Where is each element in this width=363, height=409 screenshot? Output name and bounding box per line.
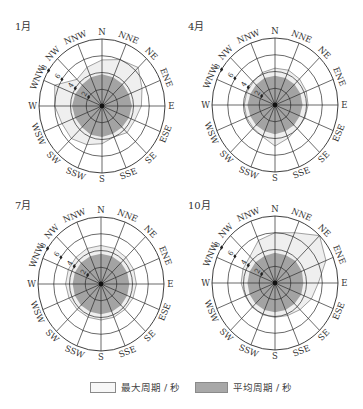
direction-label-n: N	[271, 26, 279, 36]
chart-title: 10月	[188, 200, 211, 211]
legend-swatch-avg	[195, 382, 228, 393]
legend-swatch-max	[90, 382, 116, 393]
direction-label-ese: ESE	[330, 123, 346, 144]
direction-label-nw: NW	[216, 221, 235, 240]
direction-label-nne: NNE	[116, 207, 139, 224]
direction-label-nnw: NNW	[235, 205, 261, 223]
direction-label-ene: ENE	[331, 66, 348, 88]
direction-label-w: W	[201, 278, 210, 288]
direction-label-sse: SSE	[291, 343, 311, 359]
direction-label-e: E	[341, 100, 347, 110]
direction-label-sw: SW	[44, 327, 62, 345]
direction-label-w: W	[27, 279, 36, 289]
direction-label-wsw: WSW	[202, 298, 220, 324]
direction-label-ssw: SSW	[237, 164, 260, 181]
rose-chart-apr: 4月NNNENEENEEESESESSESSSWSWWSWWWNWNWNNW24…	[188, 21, 348, 183]
direction-label-ese: ESE	[330, 301, 346, 322]
direction-label-s: S	[272, 351, 278, 361]
chart-title: 1月	[15, 21, 31, 32]
direction-label-nw: NW	[42, 222, 61, 241]
legend-item-max: 最大周期 / 秒	[90, 380, 180, 394]
direction-label-nw: NW	[43, 44, 62, 63]
center-dot	[273, 281, 278, 286]
direction-label-sw: SW	[45, 149, 63, 167]
direction-label-sw: SW	[218, 148, 236, 166]
center-dot	[99, 282, 104, 287]
direction-label-s: S	[272, 173, 278, 183]
direction-label-ese: ESE	[156, 302, 172, 323]
direction-label-nw: NW	[216, 43, 235, 62]
direction-label-e: E	[168, 101, 174, 111]
chart-title: 4月	[188, 21, 204, 32]
direction-label-w: W	[28, 101, 37, 111]
rose-chart-jul: 7月NNNENEENEEESESESSESSSWSWWSWWWNWNWNNW24…	[15, 200, 174, 362]
direction-label-sw: SW	[218, 326, 236, 344]
center-dot	[273, 103, 278, 108]
direction-label-sse: SSE	[118, 166, 138, 182]
direction-label-ene: ENE	[157, 245, 174, 267]
direction-label-sse: SSE	[291, 165, 311, 181]
rose-chart-jan: 1月NNNENEENEEESESESSESSSWSWWSWWWNWNWNNW24…	[15, 21, 175, 184]
direction-label-nnw: NNW	[61, 206, 87, 224]
direction-label-wsw: WSW	[28, 299, 46, 325]
direction-label-e: E	[341, 278, 347, 288]
direction-label-nnw: NNW	[62, 28, 88, 46]
direction-label-s: S	[99, 174, 105, 184]
legend-label-max: 最大周期 / 秒	[121, 380, 180, 394]
legend: 最大周期 / 秒 平均周期 / 秒	[0, 380, 363, 396]
center-dot	[100, 104, 105, 109]
legend-item-avg: 平均周期 / 秒	[195, 380, 292, 394]
chart-title: 7月	[15, 200, 31, 211]
direction-label-w: W	[201, 100, 210, 110]
direction-label-n: N	[97, 205, 105, 215]
direction-label-nne: NNE	[290, 206, 313, 223]
direction-label-nne: NNE	[290, 28, 313, 45]
direction-label-ssw: SSW	[63, 343, 86, 360]
direction-label-wsw: WSW	[202, 120, 220, 146]
direction-label-ssw: SSW	[237, 342, 260, 359]
direction-label-nne: NNE	[117, 29, 140, 46]
direction-label-ssw: SSW	[64, 165, 87, 182]
direction-label-wsw: WSW	[29, 121, 47, 147]
direction-label-s: S	[98, 352, 104, 362]
legend-label-avg: 平均周期 / 秒	[233, 380, 292, 394]
direction-label-nnw: NNW	[235, 27, 261, 45]
direction-label-ene: ENE	[331, 244, 348, 266]
direction-label-sse: SSE	[117, 344, 137, 360]
wave-period-rose-figure: 1月NNNENEENEEESESESSESSSWSWWSWWWNWNWNNW24…	[0, 0, 363, 409]
direction-label-n: N	[271, 204, 279, 214]
direction-label-ene: ENE	[158, 67, 175, 89]
direction-label-e: E	[167, 279, 173, 289]
rose-chart-oct: 10月NNNENEENEEESESESSESSSWSWWSWWWNWNWNNW2…	[188, 200, 348, 361]
direction-label-n: N	[98, 27, 106, 37]
direction-label-ese: ESE	[157, 124, 173, 145]
